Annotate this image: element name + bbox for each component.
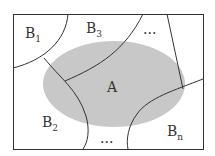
label-b2: B2 [42, 114, 58, 133]
label-a: A [106, 79, 118, 95]
partition-diagram: B1 B3 ... A B2 ... Bn [0, 0, 215, 156]
label-b3: B3 [86, 20, 102, 39]
label-ellipsis-top: ... [143, 21, 156, 37]
label-b1: B1 [25, 25, 41, 44]
label-bn: Bn [167, 123, 183, 142]
label-ellipsis-bottom: ... [100, 130, 113, 146]
